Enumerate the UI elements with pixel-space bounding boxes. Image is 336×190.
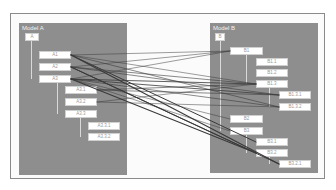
link-a1-b1 bbox=[71, 51, 230, 55]
link-a1-b3-1 bbox=[71, 55, 256, 142]
mapping-links bbox=[0, 0, 336, 190]
link-a3-2-b1-3-2 bbox=[97, 102, 279, 107]
link-a2-b1 bbox=[71, 51, 230, 67]
link-a3-1-b1-3 bbox=[97, 84, 256, 90]
